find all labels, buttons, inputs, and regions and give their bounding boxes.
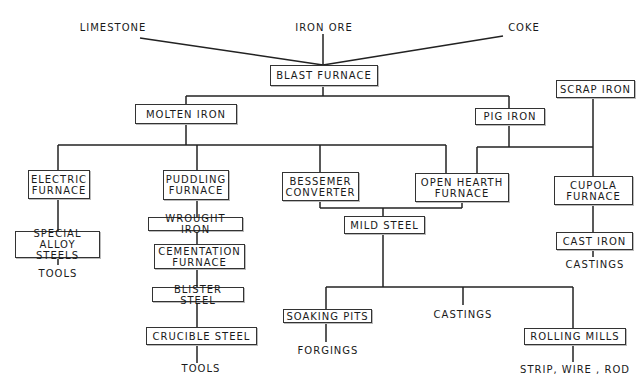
node-pig-iron: PIG IRON: [475, 108, 545, 125]
input-iron-ore: IRON ORE: [295, 22, 353, 33]
flowchart: LIMESTONE IRON ORE COKE BLAST FURNACE MO…: [0, 0, 644, 389]
output-castings-cast-iron: CASTINGS: [566, 259, 625, 270]
node-soaking-pits: SOAKING PITS: [283, 309, 372, 323]
node-scrap-iron: SCRAP IRON: [556, 80, 635, 98]
node-electric-furnace: ELECTRIC FURNACE: [28, 170, 90, 199]
node-wrought-iron: WROUGHT IRON: [148, 217, 243, 231]
output-forgings: FORGINGS: [298, 345, 359, 356]
node-cementation-furnace: CEMENTATION FURNACE: [154, 244, 245, 269]
node-blast-furnace: BLAST FURNACE: [270, 65, 378, 86]
node-puddling-furnace: PUDDLING FURNACE: [163, 170, 229, 200]
output-castings-mild-steel: CASTINGS: [434, 309, 493, 320]
node-mild-steel: MILD STEEL: [344, 216, 425, 234]
node-cupola-furnace: CUPOLA FURNACE: [554, 176, 633, 205]
node-molten-iron: MOLTEN IRON: [135, 104, 237, 124]
node-cast-iron: CAST IRON: [556, 232, 633, 250]
node-rolling-mills: ROLLING MILLS: [524, 328, 626, 345]
output-strip-wire-rod: STRIP, WIRE , ROD: [520, 364, 630, 375]
output-tools-crucible: TOOLS: [182, 363, 221, 374]
output-tools-alloy: TOOLS: [39, 268, 78, 279]
node-bessemer-converter: BESSEMER CONVERTER: [282, 172, 359, 201]
node-open-hearth-furnace: OPEN HEARTH FURNACE: [415, 173, 509, 202]
node-blister-steel: BLISTER STEEL: [152, 287, 244, 302]
node-crucible-steel: CRUCIBLE STEEL: [146, 327, 257, 345]
input-coke: COKE: [508, 22, 540, 33]
node-special-alloy-steels: SPECIAL ALLOY STEELS: [15, 231, 100, 258]
input-limestone: LIMESTONE: [80, 22, 147, 33]
